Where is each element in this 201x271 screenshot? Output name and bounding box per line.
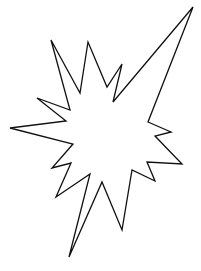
explosion-burst-figure xyxy=(0,0,201,271)
